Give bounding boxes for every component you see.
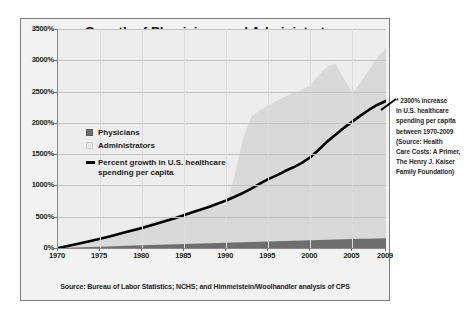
y-tick-label: 500% (20, 212, 54, 221)
x-tick-mark (99, 248, 100, 251)
x-tick-label: 1970 (40, 251, 74, 260)
gridline-y (58, 92, 386, 93)
y-tick-mark (53, 217, 57, 218)
gridline-y (58, 185, 386, 186)
chart-legend: Physicians Administrators Percent growth… (86, 128, 291, 181)
x-tick-mark (385, 248, 386, 251)
y-tick-label: 2500% (20, 87, 54, 96)
x-tick-label: 1985 (166, 251, 200, 260)
x-tick-label: 2000 (292, 251, 326, 260)
annotation-line: Family Foundation) (396, 167, 466, 177)
annotation-line: spending per capita (396, 116, 466, 126)
legend-label-physicians: Physicians (98, 128, 140, 138)
y-tick-mark (53, 123, 57, 124)
x-tick-mark (183, 248, 184, 251)
x-tick-mark (351, 248, 352, 251)
annotation-line: between 1970-2009 (396, 127, 466, 137)
x-tick-label: 2009 (368, 251, 402, 260)
x-axis: 197019751980198519901995200020052009 (0, 251, 466, 265)
source-note: Source: Bureau of Labor Statistics; NCHS… (25, 283, 385, 290)
gridline-y (58, 60, 386, 61)
legend-swatch-line-icon (86, 161, 95, 164)
gridline-x (310, 29, 311, 248)
y-tick-label: 3500% (20, 24, 54, 33)
annotation-line: in U.S. healthcare (396, 106, 466, 116)
gridline-y (58, 123, 386, 124)
gridline-y (58, 217, 386, 218)
spending-callout-annotation: * 2300% increasein U.S. healthcarespendi… (396, 96, 466, 178)
annotation-line: * 2300% increase (396, 96, 466, 106)
legend-swatch-physicians-icon (86, 129, 93, 136)
annotation-line: The Henry J. Kaiser (396, 157, 466, 167)
annotation-line: Care Costs: A Primer, (396, 147, 466, 157)
legend-label-spending-line2: spending per capita (98, 168, 174, 177)
gridline-y (58, 29, 386, 30)
y-axis: 0%500%1000%1500%2000%2500%3000%3500% (18, 0, 54, 312)
y-tick-mark (53, 92, 57, 93)
y-tick-label: 1000% (20, 180, 54, 189)
gridline-x (352, 29, 353, 248)
x-tick-label: 1975 (82, 251, 116, 260)
y-tick-mark (53, 185, 57, 186)
legend-item-spending-growth: Percent growth in U.S. healthcare spendi… (86, 158, 291, 178)
x-tick-label: 1995 (250, 251, 284, 260)
x-tick-mark (57, 248, 58, 251)
legend-label-spending-line1: Percent growth in U.S. healthcare (98, 158, 226, 167)
x-tick-mark (225, 248, 226, 251)
y-tick-mark (53, 29, 57, 30)
y-tick-label: 1500% (20, 149, 54, 158)
y-tick-mark (53, 60, 57, 61)
legend-swatch-administrators-icon (86, 142, 93, 149)
x-tick-mark (267, 248, 268, 251)
x-tick-label: 1990 (208, 251, 242, 260)
legend-label-spending-growth: Percent growth in U.S. healthcare spendi… (98, 158, 226, 178)
x-tick-label: 1980 (124, 251, 158, 260)
legend-item-physicians: Physicians (86, 128, 291, 138)
x-tick-mark (141, 248, 142, 251)
x-tick-label: 2005 (334, 251, 368, 260)
x-tick-mark (309, 248, 310, 251)
legend-item-administrators: Administrators (86, 141, 291, 151)
legend-label-administrators: Administrators (98, 141, 155, 151)
y-tick-label: 3000% (20, 55, 54, 64)
chart-figure: Growth of Physicians and Administrators … (0, 0, 466, 312)
annotation-line: (Source: Health (396, 137, 466, 147)
y-tick-mark (53, 154, 57, 155)
y-tick-label: 2000% (20, 118, 54, 127)
